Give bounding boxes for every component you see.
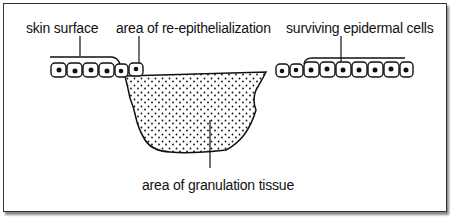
label-re-epithelialization: area of re-epithelialization bbox=[116, 20, 271, 36]
label-surviving-epidermal-cells: surviving epidermal cells bbox=[286, 20, 434, 36]
granulation-tissue bbox=[125, 72, 266, 153]
label-skin-surface: skin surface bbox=[26, 20, 98, 36]
label-granulation-tissue: area of granulation tissue bbox=[142, 177, 294, 193]
left-epidermal-cells bbox=[51, 63, 143, 77]
